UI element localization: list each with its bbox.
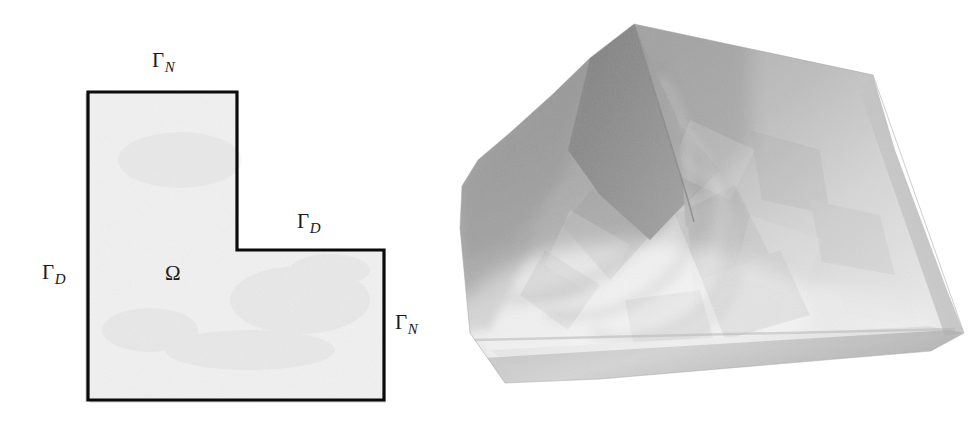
figure-root: ΓN ΓD ΓD ΓN Ω (0, 0, 977, 430)
surface-plot-panel (450, 0, 977, 430)
domain-svg (0, 0, 450, 430)
gamma-glyph-top: Γ (152, 48, 164, 72)
gamma-subscript-right: N (408, 321, 418, 337)
surface-plot-svg (450, 0, 977, 430)
gamma-subscript-left: D (55, 271, 66, 287)
l-shaped-domain-panel: ΓN ΓD ΓD ΓN Ω (0, 0, 450, 430)
omega-label: Ω (165, 263, 181, 284)
gamma-subscript-top: N (165, 59, 175, 75)
boundary-label-left: ΓD (42, 262, 66, 287)
gamma-glyph-inner-right: Γ (297, 209, 309, 233)
boundary-label-right: ΓN (395, 312, 418, 337)
gamma-glyph-left: Γ (42, 260, 54, 284)
boundary-label-inner-right: ΓD (297, 211, 321, 236)
surface-body (450, 0, 977, 430)
boundary-label-top: ΓN (152, 50, 175, 75)
gamma-glyph-right: Γ (395, 310, 407, 334)
gamma-subscript-inner-right: D (310, 220, 321, 236)
